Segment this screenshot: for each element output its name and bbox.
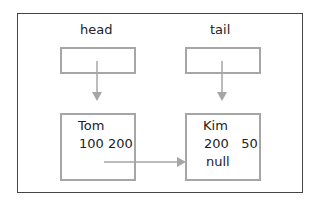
tail-arrow-icon xyxy=(217,92,227,101)
arrows xyxy=(0,0,317,205)
head-arrow-icon xyxy=(92,92,102,101)
next-arrow-icon xyxy=(177,157,186,167)
